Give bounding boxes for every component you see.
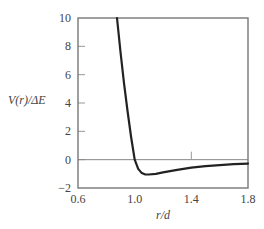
y-tick-label: 4 (65, 96, 71, 110)
y-tick-marks (78, 46, 85, 159)
y-tick-label: 6 (65, 68, 71, 82)
y-tick-label: 10 (59, 11, 71, 25)
x-tick-label: 1.8 (241, 192, 256, 206)
y-tick-label: −2 (58, 181, 71, 195)
x-tick-labels: 0.61.01.41.8 (71, 192, 256, 206)
x-tick-label: 1.0 (127, 192, 142, 206)
y-tick-label: 8 (65, 39, 71, 53)
y-tick-labels: −20246810 (58, 11, 71, 195)
plot-frame (78, 18, 248, 188)
x-axis-label: r/d (156, 208, 171, 222)
y-tick-label: 2 (65, 124, 71, 138)
potential-curve (117, 18, 248, 175)
x-tick-label: 0.6 (71, 192, 86, 206)
y-axis-label: V(r)/ΔE (8, 93, 46, 107)
potential-energy-chart: −20246810 0.61.01.41.8 V(r)/ΔE r/d (0, 0, 264, 229)
x-tick-label: 1.4 (184, 192, 199, 206)
y-tick-label: 0 (65, 153, 71, 167)
